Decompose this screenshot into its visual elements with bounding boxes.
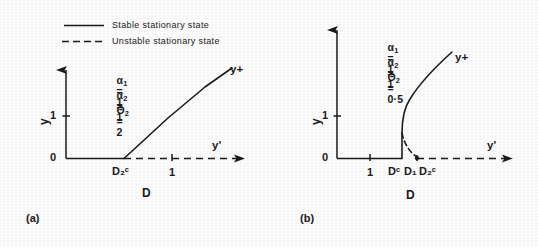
- panel-a-x-axis-label: D: [142, 187, 151, 199]
- panel-a-unstable-axis-label: y': [212, 140, 221, 152]
- panel-a-y-axis-label: y: [38, 118, 50, 125]
- panel-a-xtick-label-d2c: D₂ᶜ: [112, 166, 129, 177]
- panel-b-xtick-label-d2c: D₂ᶜ: [419, 166, 436, 177]
- panel-b: [334, 30, 513, 161]
- panel-b-ytick-label-1: 1: [322, 110, 328, 121]
- panel-b-unstable-turning-branch: [402, 133, 417, 157]
- panel-a-xtick-label-1: 1: [169, 167, 175, 178]
- panel-a-param-theta2-symbol: Θ: [116, 104, 124, 116]
- legend-label-unstable: Unstable stationary state: [112, 37, 220, 46]
- panel-b-branch-label-yplus: y+: [455, 52, 468, 64]
- panel-a-tag: (a): [26, 213, 39, 224]
- panel-a-param-theta2: Θ2 = 2: [104, 94, 129, 148]
- panel-b-tag: (b): [300, 213, 314, 224]
- panel-b-param-theta2-sub: 2: [396, 75, 400, 84]
- panel-a-branch-label-yplus: y+: [230, 64, 243, 76]
- figure-canvas: [0, 0, 538, 247]
- panel-a-param-theta2-value: 2: [116, 126, 122, 138]
- legend-label-stable: Stable stationary state: [112, 21, 209, 30]
- panel-b-param-theta2-value: 0·5: [387, 93, 403, 105]
- panel-b-xtick-label-1: 1: [367, 167, 373, 178]
- panel-b-xtick-label-dc: Dᶜ: [388, 166, 400, 177]
- panel-b-param-theta2: Θ2 = 0·5: [375, 61, 403, 115]
- bifurcation-figure: Stable stationary state Unstable station…: [0, 0, 538, 247]
- panel-b-y-axis-label: y: [310, 118, 322, 125]
- panel-b-fold-point: [415, 156, 419, 160]
- panel-b-param-theta2-symbol: Θ: [387, 71, 395, 83]
- legend: [62, 26, 104, 42]
- panel-a-ytick-label-1: 1: [50, 110, 56, 121]
- panel-b-x-axis-label: D: [406, 189, 415, 201]
- panel-a-ytick-label-0: 0: [50, 152, 56, 163]
- panel-b-stable-upper-branch: [402, 52, 452, 159]
- panel-b-xtick-label-d1: D₁: [404, 166, 417, 177]
- panel-b-ytick-label-0: 0: [322, 152, 328, 163]
- panel-b-unstable-axis-label: y': [487, 140, 496, 152]
- panel-a-param-theta2-sub: 2: [125, 108, 129, 117]
